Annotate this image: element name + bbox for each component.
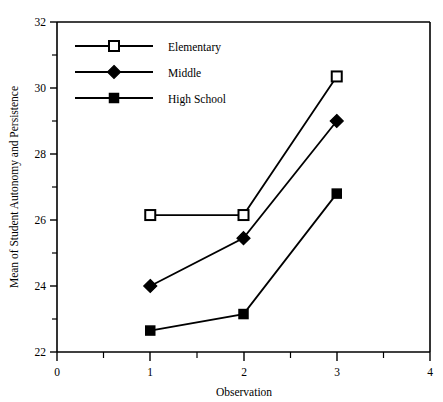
y-tick-label-28: 28 [35,148,47,160]
legend-label: Middle [168,67,201,79]
chart-legend: ElementaryMiddleHigh School [75,41,226,106]
x-tick-label-2: 2 [241,366,247,378]
series-middle [144,115,344,293]
y-tick-label-26: 26 [35,214,47,226]
line-chart: 22 24 26 28 30 32 Mean of Student Autono… [0,0,443,402]
legend-item-high-school[interactable]: High School [75,93,226,106]
data-point [146,326,155,335]
legend-marker-icon [109,41,119,51]
x-axis-tick-labels: 0 1 2 3 4 [54,366,433,378]
x-tick-label-0: 0 [54,366,60,378]
y-tick-label-24: 24 [35,280,47,292]
x-tick-label-3: 3 [334,366,340,378]
y-tick-label-30: 30 [35,82,47,94]
data-point [332,189,341,198]
legend-label: High School [168,93,226,106]
x-tick-label-1: 1 [147,366,153,378]
x-tick-label-4: 4 [427,366,433,378]
data-point [144,280,157,293]
legend-marker-icon [108,66,121,79]
legend-item-middle[interactable]: Middle [75,66,201,79]
y-tick-label-22: 22 [35,346,47,358]
y-axis-tick-labels: 22 24 26 28 30 32 [35,16,47,358]
y-axis-title: Mean of Student Autonomy and Persistence [8,86,21,288]
legend-label: Elementary [168,41,221,54]
data-point [239,310,248,319]
data-point [239,210,249,220]
x-axis-title: Observation [216,386,272,398]
data-series-layer [144,71,344,335]
legend-item-elementary[interactable]: Elementary [75,41,221,54]
data-point [145,210,155,220]
legend-marker-icon [110,94,119,103]
series-line [150,121,337,286]
x-axis-major-ticks [57,352,430,361]
y-tick-label-32: 32 [35,16,47,28]
chart-figure: 22 24 26 28 30 32 Mean of Student Autono… [0,0,443,402]
data-point [332,71,342,81]
